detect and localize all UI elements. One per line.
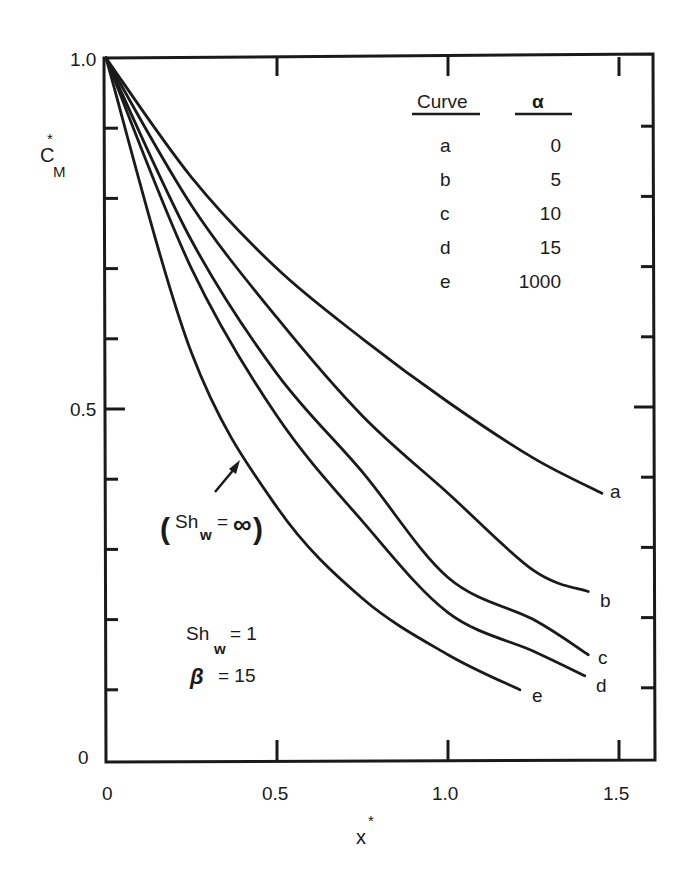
legend-curve-d: d: [440, 237, 451, 258]
svg-text:∞: ∞: [233, 509, 252, 539]
x-axis-label: x *: [356, 812, 374, 848]
arrow-icon: [215, 460, 240, 492]
legend-header-alpha: α: [532, 91, 544, 112]
curve-tag-b: b: [600, 590, 611, 611]
curve-c: [106, 58, 588, 655]
svg-text:= 1: = 1: [230, 623, 257, 644]
x-tick-label-1.5: 1.5: [603, 783, 629, 804]
axis-ticks: [105, 57, 654, 761]
legend-alpha-e: 1000: [519, 271, 561, 292]
svg-text:(: (: [160, 512, 170, 545]
legend-alpha-a: 0: [550, 135, 561, 156]
svg-text:w: w: [213, 640, 226, 657]
curve-tag-d: d: [596, 675, 607, 696]
legend-curve-a: a: [440, 135, 451, 156]
annotation-sh-infinity: ( Sh w = ∞ ): [160, 509, 263, 545]
legend-curve-e: e: [440, 271, 451, 292]
curve-e: [106, 58, 520, 690]
curve-tag-e: e: [532, 685, 543, 706]
svg-text:β: β: [189, 664, 204, 689]
svg-text:=: =: [217, 511, 228, 532]
legend-curve-b: b: [440, 169, 451, 190]
legend-table: Curve α a0b5c10d15e1000: [412, 91, 572, 292]
annotation-beta: β = 15: [189, 664, 256, 689]
annotation-sh-w: Sh w = 1: [186, 623, 257, 657]
y-tick-label-0.5: 0.5: [70, 399, 96, 420]
x-tick-label-0.5: 0.5: [262, 783, 288, 804]
chart: 1.0 0.5 0 0 0.5 1.0 1.5 C M * x * Curve …: [0, 0, 686, 887]
y-tick-label-0: 0: [78, 747, 89, 768]
svg-text:= 15: = 15: [218, 665, 256, 686]
svg-text:M: M: [53, 163, 66, 180]
svg-text:x: x: [356, 826, 366, 848]
plot-frame: [104, 54, 655, 762]
legend-alpha-d: 15: [540, 237, 561, 258]
legend-alpha-c: 10: [540, 203, 561, 224]
legend-alpha-b: 5: [550, 169, 561, 190]
y-tick-label-1.0: 1.0: [70, 49, 96, 70]
legend-curve-c: c: [440, 203, 450, 224]
legend-header-curve: Curve: [417, 91, 468, 112]
svg-text:): ): [253, 512, 263, 545]
svg-text:w: w: [199, 526, 212, 543]
svg-text:Sh: Sh: [175, 511, 198, 532]
y-axis-label: C M *: [40, 130, 66, 180]
x-tick-label-0: 0: [102, 783, 113, 804]
x-tick-label-1.0: 1.0: [432, 783, 458, 804]
curve-tag-c: c: [598, 647, 608, 668]
curve-tag-a: a: [610, 481, 621, 502]
svg-text:*: *: [368, 812, 374, 829]
curves: [106, 58, 602, 690]
svg-text:*: *: [47, 130, 53, 147]
svg-text:Sh: Sh: [186, 623, 209, 644]
